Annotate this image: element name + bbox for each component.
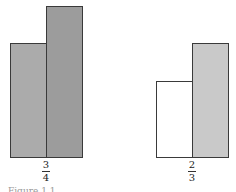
- denominator: 3: [182, 173, 202, 183]
- numerator: 2: [182, 160, 202, 170]
- bar-3-4-part: [10, 43, 47, 158]
- bar-3-4-whole: [46, 6, 83, 158]
- bar-2-3-whole: [192, 43, 229, 158]
- figure-caption: Figure 1.1: [8, 186, 55, 192]
- denominator: 4: [36, 173, 56, 183]
- numerator: 3: [36, 160, 56, 170]
- fraction-label-2-3: 2 3: [182, 160, 202, 183]
- fraction-label-3-4: 3 4: [36, 160, 56, 183]
- bar-2-3-part: [156, 81, 193, 158]
